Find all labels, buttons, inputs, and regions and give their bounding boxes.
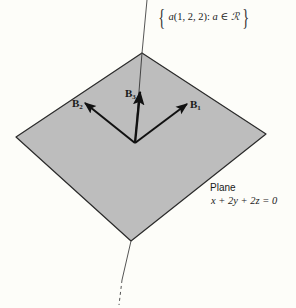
vector-b1-subscript: 1	[197, 104, 201, 112]
line-span-lower-dashed	[119, 280, 122, 305]
line-span-label: { a(1, 2, 2): a ∈ ℛ }	[156, 5, 251, 29]
vector-b2-subscript: 2	[79, 103, 83, 111]
vector-b3-label: B3	[125, 88, 136, 101]
open-brace: {	[158, 5, 165, 29]
plane-title: Plane	[210, 183, 236, 193]
diagram-canvas	[0, 0, 296, 308]
vector-diagram: { a(1, 2, 2): a ∈ ℛ } B1 B2 B3 Plane x +…	[0, 0, 296, 308]
plane-equation: x + 2y + 2z = 0	[211, 196, 277, 207]
plane-shape	[16, 53, 266, 241]
set-condition: a ∈ ℛ	[213, 11, 239, 22]
set-separator: :	[207, 11, 210, 22]
vector-b3-subscript: 3	[132, 93, 136, 101]
direction-vector: (1, 2, 2)	[174, 11, 207, 22]
close-brace: }	[242, 5, 249, 29]
vector-b1-label: B1	[190, 99, 201, 112]
vector-b2-label: B2	[72, 98, 83, 111]
set-body: a(1, 2, 2): a ∈ ℛ	[169, 12, 239, 23]
line-span-upper	[142, 0, 147, 53]
line-span-lower	[122, 241, 131, 280]
